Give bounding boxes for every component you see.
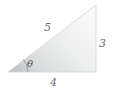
hypotenuse-label: 5 bbox=[44, 22, 51, 33]
theta-angle-label: θ bbox=[27, 59, 33, 69]
adjacent-side-label: 4 bbox=[50, 77, 57, 88]
triangle-graphic bbox=[0, 0, 114, 101]
triangle-shape bbox=[8, 5, 96, 72]
triangle-figure: 5 3 4 θ bbox=[0, 0, 114, 101]
opposite-side-label: 3 bbox=[99, 38, 106, 49]
